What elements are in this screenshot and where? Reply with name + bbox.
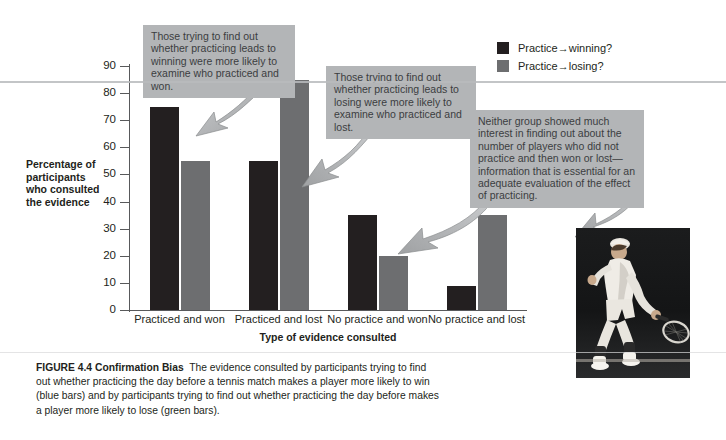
callout-box-1: Those trying to find out whether practic…	[143, 25, 295, 98]
callout-box-3: Neither group showed much interest in fi…	[470, 110, 644, 208]
y-tick-30	[120, 229, 129, 230]
y-tick-value: 70	[88, 114, 116, 124]
callout-box-2: Those trying to find out whether practic…	[326, 66, 476, 139]
y-tick-label: 20	[86, 250, 116, 260]
y-tick-label: 80	[86, 87, 116, 97]
bar-practice-winning	[348, 215, 377, 310]
legend-swatch-dark	[497, 42, 509, 54]
y-tick-label: 70	[86, 114, 116, 124]
y-tick-10	[120, 283, 129, 284]
x-category-label: Practiced and lost	[235, 313, 322, 325]
y-axis-title-line: the evidence	[26, 196, 126, 209]
x-category-label: Practiced and won	[134, 313, 225, 325]
y-tick-60	[120, 147, 129, 148]
y-tick-value: 0	[88, 304, 116, 314]
y-tick-label: 60	[86, 141, 116, 151]
x-axis-title: Type of evidence consulted	[130, 331, 526, 343]
court-baseline	[576, 359, 690, 362]
tennis-player-photo	[576, 228, 690, 378]
y-tick-80	[120, 93, 129, 94]
figure-number: FIGURE 4.4	[36, 362, 92, 373]
y-tick-value: 60	[88, 141, 116, 151]
legend-swatch-gray	[497, 60, 509, 72]
y-tick-value: 80	[88, 87, 116, 97]
y-axis-title-line: participants	[26, 171, 126, 184]
bar-practice-winning	[249, 161, 278, 310]
y-tick-label: 30	[86, 223, 116, 233]
chart-legend: Practice→winning? Practice→losing?	[497, 40, 612, 76]
legend-item-practice-losing: Practice→losing?	[497, 58, 612, 73]
y-axis-title-line: Percentage of	[26, 158, 126, 171]
y-axis-title-line: who consulted	[26, 183, 126, 196]
y-tick-value: 20	[88, 250, 116, 260]
figure-caption: FIGURE 4.4 Confirmation Bias The evidenc…	[36, 361, 440, 418]
x-category-label: No practice and won	[327, 313, 427, 325]
y-axis-title: Percentage ofparticipantswho consultedth…	[26, 158, 126, 208]
scan-artifact-line-bottom	[0, 352, 726, 353]
y-tick-value: 30	[88, 223, 116, 233]
legend-label-practice-winning: Practice→winning?	[518, 42, 612, 54]
x-category-label: No practice and lost	[428, 313, 525, 325]
bar-practice-winning	[447, 286, 476, 310]
bar-practice-losing	[181, 161, 210, 310]
y-tick-label: 90	[86, 60, 116, 70]
y-tick-70	[120, 120, 129, 121]
bar-practice-winning	[150, 107, 179, 310]
y-tick-label: 10	[86, 277, 116, 287]
legend-item-practice-winning: Practice→winning?	[497, 40, 612, 55]
figure-page: 0102030405060708090 Percentage ofpartici…	[0, 0, 726, 440]
y-tick-value: 10	[88, 277, 116, 287]
callout-arrow-3	[392, 198, 502, 268]
y-tick-label: 0	[86, 304, 116, 314]
scan-artifact-line-top	[0, 81, 726, 83]
figure-title: Confirmation Bias	[95, 362, 184, 373]
y-tick-0	[120, 310, 129, 311]
y-tick-20	[120, 256, 129, 257]
y-tick-90	[120, 66, 129, 67]
legend-label-practice-losing: Practice→losing?	[518, 60, 604, 72]
x-axis-line	[129, 310, 527, 311]
y-tick-value: 90	[88, 60, 116, 70]
